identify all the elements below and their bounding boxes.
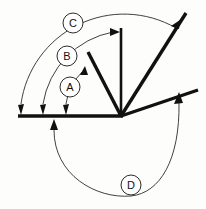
arc-b-group: [40, 28, 120, 115]
arc-a-head-arrowhead: [80, 66, 88, 75]
label-a: A: [60, 77, 80, 97]
ray-shallow-right: [121, 90, 198, 116]
arc-c-path: [21, 14, 176, 104]
arc-d-tail-arrowhead: [50, 119, 58, 130]
angle-diagram-svg: C B A D: [0, 0, 206, 209]
arc-b-head-arrowhead: [110, 28, 120, 36]
label-d-text: D: [127, 179, 135, 191]
arc-a-tail-arrowhead: [63, 104, 69, 115]
label-c-text: C: [69, 17, 77, 29]
ray-upper-left: [88, 52, 121, 116]
label-b-text: B: [63, 50, 70, 62]
label-c: C: [63, 13, 83, 33]
label-b: B: [57, 46, 77, 66]
angle-diagram-canvas: C B A D: [0, 0, 206, 209]
arc-c-tail-arrowhead: [18, 104, 24, 115]
arc-b-tail-arrowhead: [40, 104, 46, 115]
label-a-text: A: [66, 81, 74, 93]
label-d: D: [121, 175, 141, 195]
arc-c-group: [18, 14, 180, 115]
